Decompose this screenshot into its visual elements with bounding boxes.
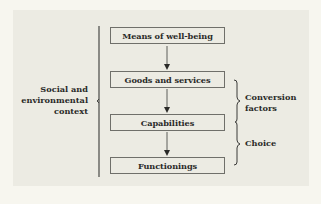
right-brace-choice: [234, 122, 240, 165]
left-bracket: [97, 26, 99, 177]
left-label-line-2: environmental: [21, 95, 88, 106]
conversion-line-1: Conversion: [245, 92, 296, 103]
node-label: Functionings: [138, 161, 197, 171]
node-goods-and-services: Goods and services: [110, 71, 225, 88]
node-functionings: Functionings: [110, 157, 225, 174]
node-capabilities: Capabilities: [110, 114, 225, 131]
left-label-line-3: context: [21, 106, 88, 117]
node-label: Goods and services: [125, 75, 211, 85]
choice-line: Choice: [245, 138, 276, 149]
right-brace-conversion-factors: [234, 80, 240, 122]
node-label: Capabilities: [141, 118, 194, 128]
arrow-capabilities-to-functionings: [164, 132, 170, 156]
choice-label: Choice: [245, 138, 276, 149]
node-label: Means of well-being: [122, 31, 213, 41]
conversion-line-2: factors: [245, 103, 296, 114]
arrow-means-to-goods: [164, 46, 170, 70]
left-bracket-label: Social and environmental context: [21, 84, 88, 117]
node-means-of-well-being: Means of well-being: [110, 27, 225, 44]
arrow-goods-to-capabilities: [164, 89, 170, 113]
conversion-factors-label: Conversion factors: [245, 92, 296, 114]
left-label-line-1: Social and: [21, 84, 88, 95]
